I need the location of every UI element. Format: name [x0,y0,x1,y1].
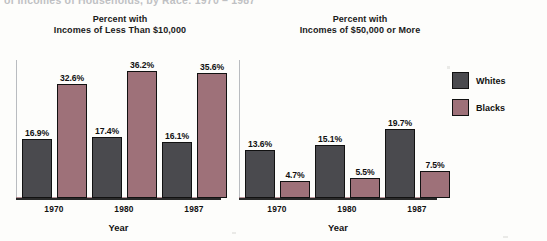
bar-right-1970-blacks [280,181,310,198]
bar-left-1980-whites [92,137,122,198]
bar-label-right-1987-blacks: 7.5% [410,160,460,170]
x-tick-left-1987: 1987 [169,204,219,214]
panel-title-right-line1: Percent with [275,14,445,25]
bar-right-1980-blacks [350,178,380,198]
x-axis-right [239,198,437,200]
bar-label-right-1980-whites: 15.1% [305,134,355,144]
scan-speck [447,66,450,69]
x-axis-title-left: Year [16,222,221,233]
legend-item-whites: Whites [452,72,506,89]
panel-title-left-line2: Incomes of Less Than $10,000 [30,25,210,36]
legend-item-blacks: Blacks [452,99,505,116]
bar-left-1987-whites [162,142,192,198]
x-tick-left-1970: 1970 [29,204,79,214]
chart-figure: of Incomes of Households, by Race: 1970 … [0,0,547,241]
panel-title-right: Percent with Incomes of $50,000 or More [275,14,445,35]
panel-title-left-line1: Percent with [30,14,210,25]
x-tick-right-1987: 1987 [392,204,442,214]
bar-left-1987-blacks [197,73,227,198]
bar-label-left-1987-whites: 16.1% [152,131,202,141]
bar-label-left-1980-blacks: 36.2% [117,60,167,70]
bar-left-1970-whites [22,139,52,198]
x-tick-right-1970: 1970 [252,204,302,214]
bar-label-left-1980-whites: 17.4% [82,126,132,136]
legend-swatch-whites [452,72,469,89]
bar-label-left-1970-blacks: 32.6% [47,73,97,83]
plot-area-left: 16.9% 32.6% 1970 17.4% 36.2% 1980 16.1% … [16,60,221,200]
x-axis-title-right: Year [239,222,437,233]
bar-left-1970-blacks [57,84,87,198]
panel-title-right-line2: Incomes of $50,000 or More [275,25,445,36]
plot-area-right: 13.6% 4.7% 1970 15.1% 5.5% 1980 19.7% 7.… [239,60,437,200]
x-axis-left [16,198,221,200]
bar-right-1987-blacks [420,171,450,198]
panel-title-left: Percent with Incomes of Less Than $10,00… [30,14,210,35]
legend: Whites Blacks [452,72,542,120]
y-axis-right [239,60,240,200]
bar-label-right-1970-whites: 13.6% [235,139,285,149]
legend-swatch-blacks [452,99,469,116]
bar-label-right-1987-whites: 19.7% [375,118,425,128]
bar-label-left-1970-whites: 16.9% [12,128,62,138]
x-tick-right-1980: 1980 [322,204,372,214]
legend-label-whites: Whites [476,76,506,86]
legend-label-blacks: Blacks [476,103,505,113]
bar-label-left-1987-blacks: 35.6% [187,62,237,72]
bar-label-right-1970-blacks: 4.7% [270,170,320,180]
clipped-document-title: of Incomes of Households, by Race: 1970 … [4,0,424,6]
x-tick-left-1980: 1980 [99,204,149,214]
scan-speck [232,232,236,234]
scan-speck [503,236,508,238]
bar-label-right-1980-blacks: 5.5% [340,167,390,177]
